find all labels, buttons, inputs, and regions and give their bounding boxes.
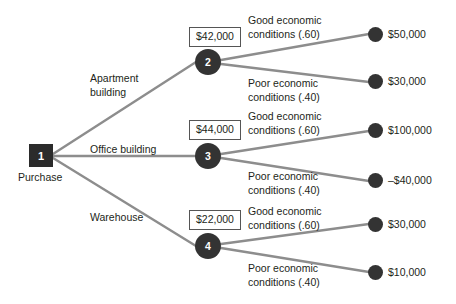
edge-purchase-to-node4 [53, 158, 196, 246]
branch-label-apartment: Apartment building [90, 72, 138, 99]
chance-node-3[interactable]: 3 [195, 143, 221, 169]
chance-node-3-label: 3 [205, 150, 211, 162]
chance-node-2[interactable]: 2 [195, 49, 221, 75]
payoff-node2-good: $50,000 [388, 28, 426, 40]
decision-node-1-label: 1 [38, 150, 44, 162]
decision-node-1[interactable]: 1 [29, 144, 53, 167]
payoff-node4-good: $30,000 [388, 218, 426, 230]
branch-label-warehouse: Warehouse [90, 211, 143, 225]
terminal-dot-node4-good [368, 217, 383, 232]
decision-tree-diagram: 1 Purchase Apartment building Office bui… [0, 0, 456, 304]
payoff-node4-poor: $10,000 [388, 266, 426, 278]
decision-node-caption: Purchase [18, 171, 62, 185]
chance-node-4-label: 4 [205, 240, 211, 252]
condition-label-node4-poor: Poor economic conditions (.40) [248, 262, 320, 289]
chance-node-4[interactable]: 4 [195, 233, 221, 259]
chance-node-2-label: 2 [205, 56, 211, 68]
payoff-node3-good: $100,000 [388, 124, 432, 136]
terminal-dot-node2-good [368, 27, 383, 42]
terminal-dot-node3-good [368, 123, 383, 138]
condition-label-node3-good: Good economic conditions (.60) [248, 110, 322, 137]
branch-label-office: Office building [90, 143, 156, 157]
condition-label-node3-poor: Poor economic conditions (.40) [248, 170, 320, 197]
payoff-node3-poor: –$40,000 [388, 174, 432, 186]
expected-value-box-node2: $42,000 [189, 27, 241, 47]
condition-label-node4-good: Good economic conditions (.60) [248, 205, 322, 232]
expected-value-box-node3: $44,000 [189, 120, 241, 140]
terminal-dot-node2-poor [368, 74, 383, 89]
terminal-dot-node3-poor [368, 173, 383, 188]
expected-value-box-node4: $22,000 [189, 210, 241, 230]
payoff-node2-poor: $30,000 [388, 75, 426, 87]
condition-label-node2-good: Good economic conditions (.60) [248, 14, 322, 41]
terminal-dot-node4-poor [368, 265, 383, 280]
condition-label-node2-poor: Poor economic conditions (.40) [248, 77, 320, 104]
